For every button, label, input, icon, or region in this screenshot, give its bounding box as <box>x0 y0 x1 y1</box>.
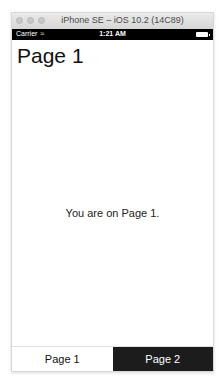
tab-page-2[interactable]: Page 2 <box>113 347 214 371</box>
battery-icon <box>196 32 208 37</box>
page-message: You are on Page 1. <box>12 207 213 219</box>
status-bar: Carrier≈ 1:21 AM <box>12 29 213 40</box>
status-time: 1:21 AM <box>12 30 213 37</box>
window-titlebar: iPhone SE – iOS 10.2 (14C89) <box>12 13 213 30</box>
page-title: Page 1 <box>17 44 84 68</box>
tab-bar: Page 1 Page 2 <box>12 346 213 371</box>
window-title: iPhone SE – iOS 10.2 (14C89) <box>12 15 213 25</box>
simulator-window: iPhone SE – iOS 10.2 (14C89) Carrier≈ 1:… <box>11 12 214 372</box>
tab-page-1[interactable]: Page 1 <box>12 347 113 371</box>
